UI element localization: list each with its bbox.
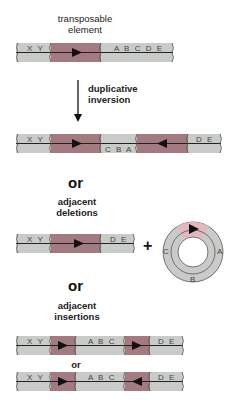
- dna-original: X Y A B C D E: [16, 43, 174, 62]
- duplicative-inversion-label: duplicative inversion: [88, 83, 148, 105]
- segment-label: D E: [158, 337, 176, 346]
- or-label-1: or: [68, 174, 83, 191]
- segment-label: D E: [158, 373, 176, 382]
- down-arrow-icon: [74, 114, 82, 122]
- dna-circle: A B C: [163, 222, 224, 284]
- segment-label: X Y: [27, 373, 44, 382]
- dna-insertion-a: X Y A B C D E: [16, 336, 184, 355]
- segment-label: D E: [196, 135, 214, 144]
- or-label-3: or: [66, 359, 86, 370]
- circle-label-a: A: [217, 247, 224, 256]
- adjacent-deletions-label: adjacent deletions: [45, 196, 109, 218]
- segment-label: X Y: [27, 135, 44, 144]
- or-label-2: or: [68, 277, 83, 294]
- segment-label: D E: [110, 235, 128, 244]
- segment-label: A B C: [88, 373, 116, 382]
- dna-inversion: X Y C B A D E: [16, 134, 222, 154]
- segment-label: A B C: [88, 337, 116, 346]
- segment-label: X Y: [27, 44, 44, 53]
- dna-deletion: X Y D E: [16, 234, 135, 253]
- segment-label: X Y: [27, 337, 44, 346]
- circle-label-b: B: [190, 275, 197, 284]
- diagram-canvas: X Y A B C D E X Y C B A D E X Y D E + A: [0, 0, 235, 402]
- plus-sign: +: [143, 237, 152, 254]
- dna-insertion-b: X Y A B C D E: [16, 372, 184, 391]
- segment-label: A B C D E: [114, 44, 164, 53]
- segment-label: X Y: [27, 235, 44, 244]
- circle-label-c: C: [163, 247, 170, 256]
- adjacent-insertions-label: adjacent insertions: [45, 300, 109, 322]
- segment-label: C B A: [105, 145, 133, 154]
